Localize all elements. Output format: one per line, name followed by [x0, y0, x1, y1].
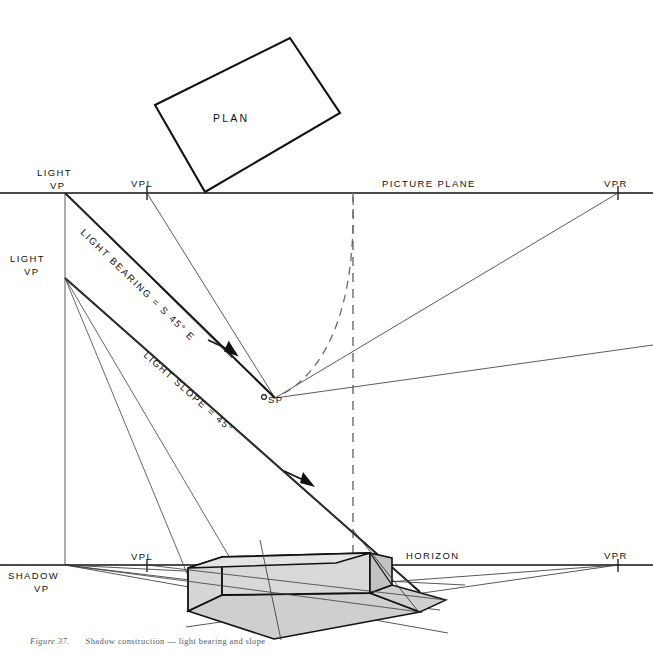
light-bearing-label: LIGHT BEARING = S 45° E: [79, 227, 198, 343]
vpr-to-sp-line: [275, 193, 618, 398]
perspective-shadow-diagram: PLAN: [0, 0, 653, 655]
station-point-marker: [262, 395, 267, 400]
shadow-vp-line1: SHADOW: [8, 570, 59, 581]
horizon-label: HORIZON: [406, 550, 460, 561]
caption-figure-number: Figure 37.: [30, 636, 70, 646]
light-vp-lower-line2: VP: [24, 266, 39, 277]
upper-light-vp-thin-ray: [65, 193, 232, 358]
shadow-vp-line2: VP: [34, 583, 49, 594]
box-right-face: [370, 553, 392, 593]
caption-figure-text: Shadow construction — light bearing and …: [86, 636, 266, 646]
cast-shadow-polygon: [188, 593, 420, 639]
light-vp-ray-b: [65, 278, 250, 592]
sp-to-box-line: [275, 345, 653, 398]
station-point-label: SP: [268, 394, 283, 405]
light-vp-upper-line1: LIGHT: [37, 167, 72, 178]
vpl-top-label: VPL: [131, 178, 153, 189]
light-slope-arrow-shaft: [284, 471, 312, 484]
figure-container: PLAN: [0, 0, 653, 655]
vpr-bottom-label: VPR: [604, 550, 628, 561]
plan-label: PLAN: [213, 112, 249, 124]
vpr-top-label: VPR: [604, 178, 628, 189]
picture-plane-label: PICTURE PLANE: [382, 178, 476, 189]
vpl-bottom-label: VPL: [131, 551, 153, 562]
figure-caption: Figure 37.Shadow construction — light be…: [30, 636, 630, 646]
measuring-arc-dashed: [277, 197, 353, 397]
light-vp-lower-line1: LIGHT: [10, 253, 45, 264]
light-slope-label: LIGHT SLOPE = 45°: [142, 349, 236, 434]
light-vp-upper-line2: VP: [50, 180, 65, 191]
